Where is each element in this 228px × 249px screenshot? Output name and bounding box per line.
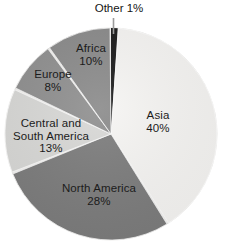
pie-chart-canvas: [0, 0, 228, 249]
pie-shading-overlay: [5, 28, 217, 240]
slice-label-other: Other 1%: [74, 2, 164, 15]
slice-label-other-text: Other 1%: [95, 2, 144, 14]
pie-chart: Other 1% Asia 40% North America 28% Cent…: [0, 0, 228, 249]
